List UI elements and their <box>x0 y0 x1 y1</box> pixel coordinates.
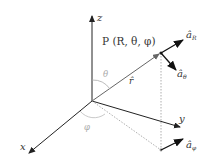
x-axis-label: x <box>20 141 26 152</box>
y-axis-label: y <box>178 113 185 124</box>
z-axis-label: z <box>96 12 103 23</box>
y-axis <box>92 101 180 127</box>
spherical-coordinates-diagram: z y x P (R, θ, φ) r̂ θ φ âR âθ âφ <box>0 0 209 168</box>
theta-arc <box>92 80 110 89</box>
projection-horizontal <box>92 101 161 150</box>
point-label: P (R, θ, φ) <box>102 35 156 47</box>
vector-label: r̂ <box>129 76 134 86</box>
phi-arc <box>80 111 105 118</box>
aR-label: âR <box>186 29 197 41</box>
unit-vector-atheta <box>161 53 176 70</box>
unit-vector-aphi <box>161 139 183 150</box>
unit-vector-aR <box>161 40 183 53</box>
x-axis <box>29 101 92 153</box>
phi-label: φ <box>84 122 90 132</box>
atheta-label: âθ <box>177 68 187 80</box>
theta-label: θ <box>103 69 108 79</box>
aphi-label: âφ <box>186 139 197 152</box>
